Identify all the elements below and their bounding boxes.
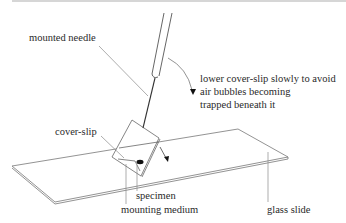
label-instruction-line2: air bubbles becoming (200, 85, 290, 98)
specimen-blob (137, 160, 144, 164)
label-instruction-line3: trapped beneath it (200, 98, 275, 111)
curved-arrow-icon (168, 58, 196, 95)
leader-mounted-needle (99, 46, 148, 96)
diagram-canvas: mounted needle lower cover-slip slowly t… (0, 0, 346, 223)
label-mounting-medium: mounting medium (121, 203, 198, 216)
mounted-needle (143, 13, 172, 128)
label-cover-slip: cover-slip (55, 125, 97, 138)
label-mounted-needle: mounted needle (29, 31, 96, 44)
label-glass-slide: glass slide (267, 203, 310, 216)
label-specimen: specimen (136, 189, 176, 202)
label-instruction-line1: lower cover-slip slowly to avoid (200, 72, 336, 85)
